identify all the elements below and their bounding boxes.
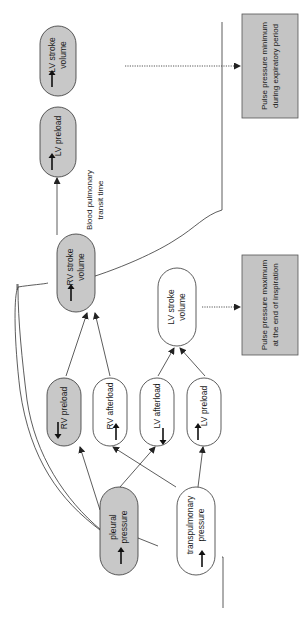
edge-pleural-transpulmonary <box>138 538 158 546</box>
note-text: Pulse pressure maximum <box>260 260 269 351</box>
note-pulse-pressure-min: Pulse pressure minimum during expiratory… <box>242 14 298 118</box>
node-pleural-pressure: pleural pressure <box>100 487 138 575</box>
node-label: LV preload <box>199 385 209 426</box>
node-label: transpulmonary <box>185 495 195 554</box>
node-lv-stroke-volume-gray: LV stroke volume <box>40 26 76 96</box>
node-label: LV afterload <box>152 383 162 428</box>
edge-label-text: transit time <box>96 180 105 220</box>
left-to-rvsv <box>18 283 48 287</box>
node-label: pressure <box>196 508 206 541</box>
note-text: during expiratory period <box>271 24 280 108</box>
node-label: RV afterload <box>105 382 115 429</box>
node-label: LV stroke <box>166 289 176 325</box>
node-lv-preload-white: LV preload <box>187 378 221 446</box>
edge-lv-preload-to-lv-sv <box>180 348 205 376</box>
node-label: volume <box>177 293 187 321</box>
edge-transpulmonary-to-lv-preload <box>198 447 203 487</box>
node-label: pressure <box>119 510 129 543</box>
node-lv-stroke-volume-white: LV stroke volume <box>158 268 196 346</box>
edge-rv-preload-to-rv-sv <box>66 313 87 376</box>
node-lv-preload-gray: LV preload <box>40 107 76 177</box>
node-lv-afterload: LV afterload <box>140 378 174 446</box>
edge-pleural-to-lv-afterload <box>120 447 155 487</box>
node-rv-preload: RV preload <box>47 378 81 446</box>
edge-label-transit: Blood pulmonary transit time <box>85 170 105 230</box>
edge-transpulmonary-bracket <box>222 557 223 608</box>
edge-pleural-to-rv-preload <box>80 447 100 510</box>
node-label: RV stroke <box>65 248 75 285</box>
node-label: LV preload <box>53 115 63 156</box>
node-label: volume <box>76 253 86 281</box>
edge-transpulmonary-to-rv-afterload <box>113 447 176 487</box>
note-text: at the end of inspiration <box>271 263 280 346</box>
right-arc <box>72 22 222 283</box>
node-rv-afterload: RV afterload <box>93 378 127 446</box>
hemodynamic-diagram: pleural pressure transpulmonary pressure… <box>0 0 300 626</box>
node-transpulmonary-pressure: transpulmonary pressure <box>177 487 215 575</box>
node-rv-stroke-volume: RV stroke volume <box>57 234 95 312</box>
node-label: pleural <box>108 514 118 540</box>
note-pulse-pressure-max: Pulse pressure maximum at the end of ins… <box>242 255 298 355</box>
node-label: volume <box>58 41 68 69</box>
edge-rv-afterload-to-rv-sv <box>95 313 110 376</box>
edge-label-text: Blood pulmonary <box>85 170 94 230</box>
node-label: RV preload <box>59 387 69 430</box>
edge-lv-afterload-to-lv-sv <box>158 348 174 376</box>
node-label: LV stroke <box>47 37 57 73</box>
note-text: Pulse pressure minimum <box>260 22 269 110</box>
